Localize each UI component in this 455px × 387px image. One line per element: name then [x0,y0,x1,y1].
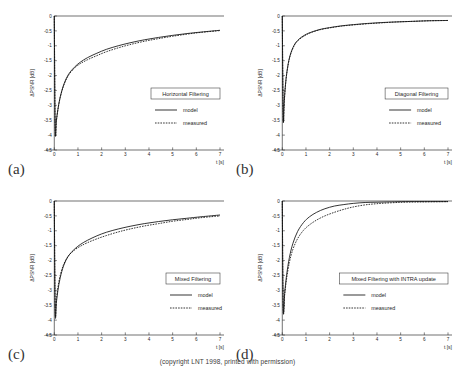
svg-text:-4.5: -4.5 [272,148,280,153]
svg-text:1: 1 [77,337,80,342]
svg-text:7: 7 [447,337,450,342]
panel-label-b: (b) [236,161,254,178]
svg-text:-3: -3 [48,288,53,293]
svg-text:-4.5: -4.5 [272,333,280,338]
svg-text:Diagonal Filtering: Diagonal Filtering [395,91,439,97]
svg-text:Horizontal Filtering: Horizontal Filtering [162,91,209,97]
svg-text:3: 3 [352,337,355,342]
svg-text:-3.5: -3.5 [272,303,280,308]
svg-text:-2.5: -2.5 [272,273,280,278]
svg-text:-1.5: -1.5 [272,58,280,63]
svg-text:5: 5 [171,152,174,157]
plot-area-c: 012345670-0.5-1-1.5-2-2.5-3-3.5-4-4.5ΔPS… [0,187,227,365]
svg-text:5: 5 [171,337,174,342]
svg-text:4: 4 [376,152,379,157]
svg-text:7: 7 [219,337,222,342]
svg-text:-3.5: -3.5 [272,118,280,123]
subplot-a: 012345670-0.5-1-1.5-2-2.5-3-3.5-4-4.5ΔPS… [0,2,227,180]
svg-text:5: 5 [399,337,402,342]
svg-text:2: 2 [100,152,103,157]
figure-grid: 012345670-0.5-1-1.5-2-2.5-3-3.5-4-4.5ΔPS… [0,0,455,355]
svg-text:4: 4 [148,152,151,157]
svg-text:measured: measured [198,305,222,311]
svg-text:0: 0 [281,337,284,342]
svg-text:-0.5: -0.5 [272,214,280,219]
svg-text:t [s]: t [s] [444,159,453,165]
svg-text:-1: -1 [48,43,53,48]
svg-text:model: model [183,107,198,113]
svg-text:ΔPSNR [dB]: ΔPSNR [dB] [257,69,263,97]
svg-text:t [s]: t [s] [216,344,225,350]
svg-text:0: 0 [53,337,56,342]
svg-text:0: 0 [277,14,280,19]
svg-text:model: model [198,292,213,298]
svg-text:5: 5 [399,152,402,157]
svg-text:6: 6 [423,152,426,157]
svg-text:2: 2 [328,152,331,157]
svg-text:-3.5: -3.5 [44,118,52,123]
svg-text:measured: measured [183,120,207,126]
svg-text:3: 3 [124,337,127,342]
svg-text:-2.5: -2.5 [44,273,52,278]
svg-text:-4: -4 [276,133,281,138]
svg-text:1: 1 [305,337,308,342]
svg-text:3: 3 [352,152,355,157]
svg-text:0: 0 [277,199,280,204]
svg-text:-3: -3 [276,288,281,293]
svg-text:-2: -2 [276,73,281,78]
svg-text:-1.5: -1.5 [44,243,52,248]
svg-text:7: 7 [447,152,450,157]
svg-text:-4.5: -4.5 [44,333,52,338]
plot-area-b: 012345670-0.5-1-1.5-2-2.5-3-3.5-4-4.5ΔPS… [228,2,455,180]
plot-area-a: 012345670-0.5-1-1.5-2-2.5-3-3.5-4-4.5ΔPS… [0,2,227,180]
svg-text:1: 1 [305,152,308,157]
svg-text:2: 2 [328,337,331,342]
svg-text:measured: measured [371,305,395,311]
panel-label-a: (a) [8,161,25,178]
svg-text:ΔPSNR [dB]: ΔPSNR [dB] [29,254,35,282]
svg-text:6: 6 [195,337,198,342]
subplot-c: 012345670-0.5-1-1.5-2-2.5-3-3.5-4-4.5ΔPS… [0,187,227,365]
svg-text:-4.5: -4.5 [44,148,52,153]
svg-text:-2: -2 [48,258,53,263]
svg-text:-2: -2 [276,258,281,263]
svg-text:0: 0 [49,199,52,204]
svg-text:-4: -4 [48,133,53,138]
svg-text:-0.5: -0.5 [44,29,52,34]
svg-text:-2.5: -2.5 [272,88,280,93]
svg-text:6: 6 [195,152,198,157]
svg-text:3: 3 [124,152,127,157]
svg-text:-3: -3 [48,103,53,108]
svg-text:1: 1 [77,152,80,157]
svg-text:7: 7 [219,152,222,157]
svg-text:-0.5: -0.5 [44,214,52,219]
svg-text:-2: -2 [48,73,53,78]
svg-text:2: 2 [100,337,103,342]
svg-text:Mixed Filtering: Mixed Filtering [175,276,211,282]
svg-text:-4: -4 [48,318,53,323]
figure-caption: (copyright LNT 1998, printed with permis… [0,358,455,365]
svg-text:0: 0 [49,14,52,19]
svg-text:ΔPSNR [dB]: ΔPSNR [dB] [257,254,263,282]
svg-text:0: 0 [281,152,284,157]
svg-text:0: 0 [53,152,56,157]
svg-text:-2.5: -2.5 [44,88,52,93]
svg-text:6: 6 [423,337,426,342]
svg-text:model: model [371,292,386,298]
svg-text:Mixed Filtering with INTRA upd: Mixed Filtering with INTRA update [351,276,436,282]
subplot-d: 012345670-0.5-1-1.5-2-2.5-3-3.5-4-4.5ΔPS… [228,187,455,365]
plot-area-d: 012345670-0.5-1-1.5-2-2.5-3-3.5-4-4.5ΔPS… [228,187,455,365]
subplot-b: 012345670-0.5-1-1.5-2-2.5-3-3.5-4-4.5ΔPS… [228,2,455,180]
svg-text:-4: -4 [276,318,281,323]
svg-text:-3.5: -3.5 [44,303,52,308]
svg-text:t [s]: t [s] [444,344,453,350]
svg-text:-0.5: -0.5 [272,29,280,34]
svg-text:-1: -1 [276,228,281,233]
svg-text:ΔPSNR [dB]: ΔPSNR [dB] [29,69,35,97]
svg-text:4: 4 [148,337,151,342]
svg-text:-1.5: -1.5 [44,58,52,63]
svg-text:-1.5: -1.5 [272,243,280,248]
svg-text:measured: measured [417,120,441,126]
svg-text:-1: -1 [276,43,281,48]
svg-text:-1: -1 [48,228,53,233]
